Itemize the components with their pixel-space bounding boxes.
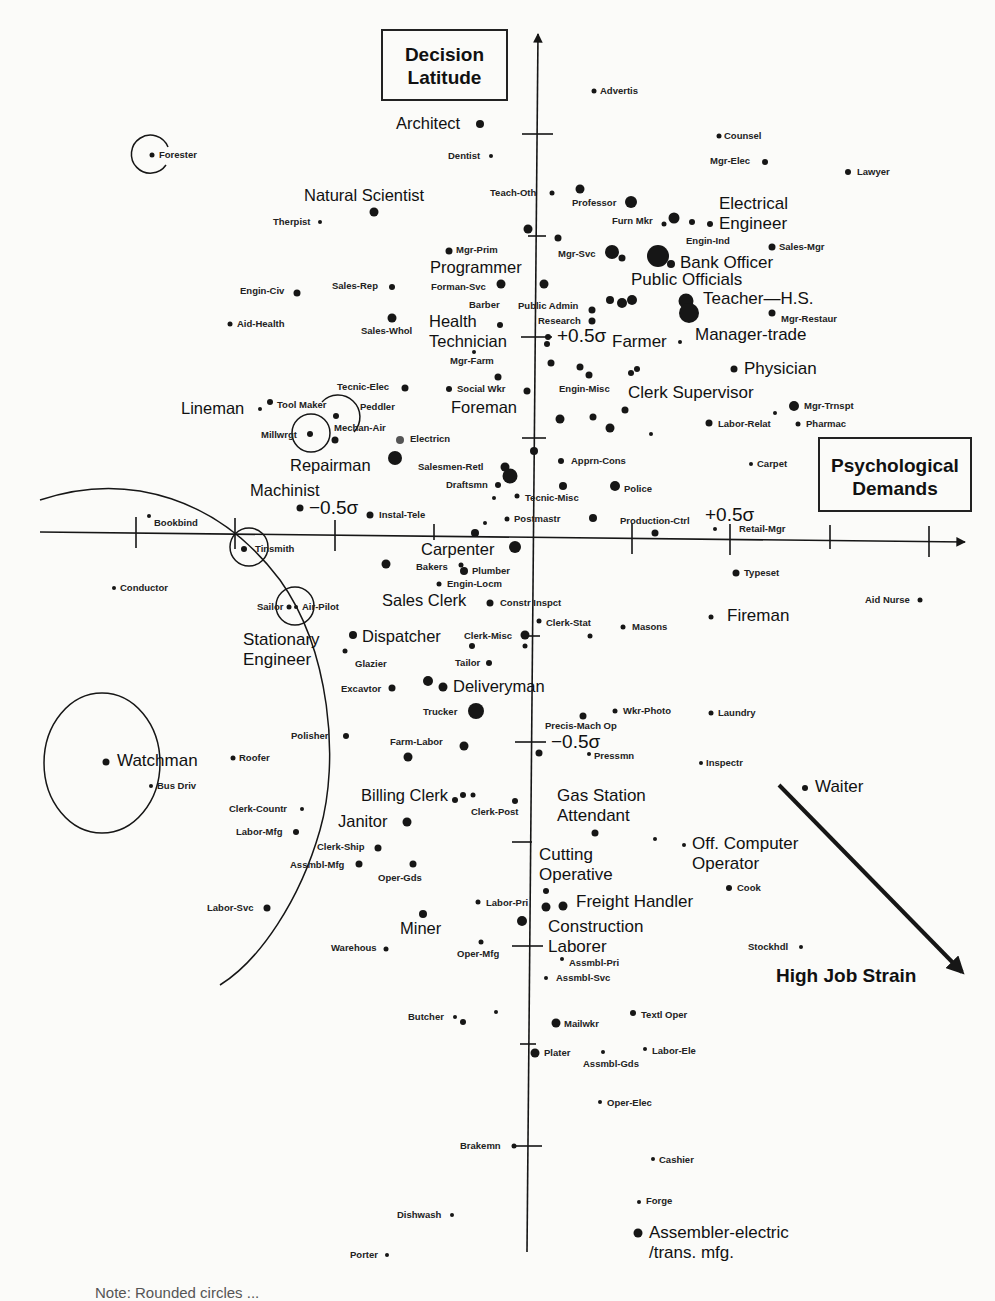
- point-label: Sales-Whol: [361, 326, 412, 336]
- data-point: [439, 683, 448, 692]
- data-point: [717, 134, 722, 139]
- point-label: Off. ComputerOperator: [692, 835, 798, 872]
- point-label: Inspectr: [706, 758, 743, 768]
- data-point: [267, 399, 273, 405]
- data-point: [548, 360, 555, 367]
- data-point: [652, 530, 659, 537]
- data-point: [918, 598, 923, 603]
- data-point: [643, 1047, 647, 1051]
- point-label: Labor-Pri: [486, 898, 528, 908]
- point-label: Janitor: [338, 813, 388, 830]
- data-point: [592, 89, 597, 94]
- point-label: Gas StationAttendant: [557, 787, 646, 824]
- point-label: Clerk-Misc: [464, 631, 512, 641]
- data-point: [385, 1253, 389, 1257]
- point-label: Professor: [572, 198, 616, 208]
- point-label: Social Wkr: [457, 384, 506, 394]
- point-label: Sales Clerk: [382, 592, 466, 609]
- data-point: [460, 1019, 466, 1025]
- point-label: Precis-Mach Op: [545, 721, 617, 731]
- point-label: Clerk-Post: [471, 807, 519, 817]
- point-label: Conductor: [120, 583, 168, 593]
- data-point: [524, 388, 531, 395]
- data-point: [300, 807, 304, 811]
- point-label: Labor-Svc: [207, 903, 253, 913]
- data-point: [403, 818, 412, 827]
- data-point: [512, 798, 518, 804]
- footer-note-cut: Note: Rounded circles ...: [95, 1284, 259, 1301]
- data-point: [649, 432, 653, 436]
- data-point: [552, 1019, 561, 1028]
- point-label: Salesmen-Retl: [418, 462, 483, 472]
- data-point: [452, 797, 458, 803]
- point-label: CuttingOperative: [539, 846, 613, 883]
- data-point: [356, 861, 363, 868]
- data-point: [287, 605, 292, 610]
- point-label: Dishwash: [397, 1210, 441, 1220]
- data-point: [419, 910, 427, 918]
- data-point: [367, 512, 374, 519]
- data-point: [590, 414, 597, 421]
- data-point: [662, 222, 667, 227]
- point-label: Mailwkr: [564, 1019, 599, 1029]
- point-label: Pharmac: [806, 419, 846, 429]
- point-label: Forman-Svc: [431, 282, 486, 292]
- data-point: [733, 570, 740, 577]
- point-label: Fireman: [727, 607, 789, 624]
- point-label: Natural Scientist: [304, 187, 424, 204]
- point-label: Typeset: [744, 568, 779, 578]
- data-point: [669, 213, 680, 224]
- data-point: [682, 843, 686, 847]
- point-label: Billing Clerk: [361, 787, 448, 804]
- data-point: [610, 481, 620, 491]
- data-point: [446, 248, 453, 255]
- point-label: Instal-Tele: [379, 510, 425, 520]
- point-label: Mgr-Restaur: [781, 314, 837, 324]
- data-point: [423, 676, 433, 686]
- data-point: [297, 505, 304, 512]
- data-point: [450, 1213, 454, 1217]
- point-label: Engin-Ind: [686, 236, 730, 246]
- data-point: [512, 1144, 517, 1149]
- data-point: [605, 245, 619, 259]
- data-point: [388, 451, 402, 465]
- data-point: [560, 957, 564, 961]
- data-point: [762, 159, 768, 165]
- data-point: [524, 225, 533, 234]
- data-point: [589, 318, 596, 325]
- point-label: Clerk-Stat: [546, 618, 591, 628]
- data-point: [559, 482, 567, 490]
- data-point: [637, 1200, 641, 1204]
- data-point: [523, 644, 528, 649]
- data-point: [540, 280, 549, 289]
- data-point: [483, 521, 487, 525]
- data-point: [544, 341, 550, 347]
- data-point: [489, 154, 493, 158]
- data-point: [343, 649, 348, 654]
- point-label: Assembler-electric/trans. mfg.: [649, 1224, 789, 1261]
- point-label: Bus Driv: [157, 781, 196, 791]
- point-label: Labor-Mfg: [236, 827, 282, 837]
- point-label: Bakers: [416, 562, 448, 572]
- data-point: [468, 703, 484, 719]
- point-label: Roofer: [239, 753, 270, 763]
- data-point: [542, 903, 551, 912]
- high-job-strain-label: High Job Strain: [776, 965, 916, 987]
- point-label: Waiter: [815, 778, 864, 795]
- data-point: [343, 733, 349, 739]
- point-label: Oper-Gds: [378, 873, 422, 883]
- point-label: Cook: [737, 883, 761, 893]
- data-point: [294, 290, 301, 297]
- data-point: [505, 517, 510, 522]
- data-point: [749, 462, 753, 466]
- point-label: Farm-Labor: [390, 737, 443, 747]
- data-point: [389, 685, 396, 692]
- data-point: [437, 582, 442, 587]
- data-point: [476, 900, 481, 905]
- data-point: [598, 1100, 602, 1104]
- data-point: [731, 366, 738, 373]
- data-point: [606, 296, 614, 304]
- data-point: [264, 905, 271, 912]
- data-point: [103, 759, 110, 766]
- point-label: Furn Mkr: [612, 216, 653, 226]
